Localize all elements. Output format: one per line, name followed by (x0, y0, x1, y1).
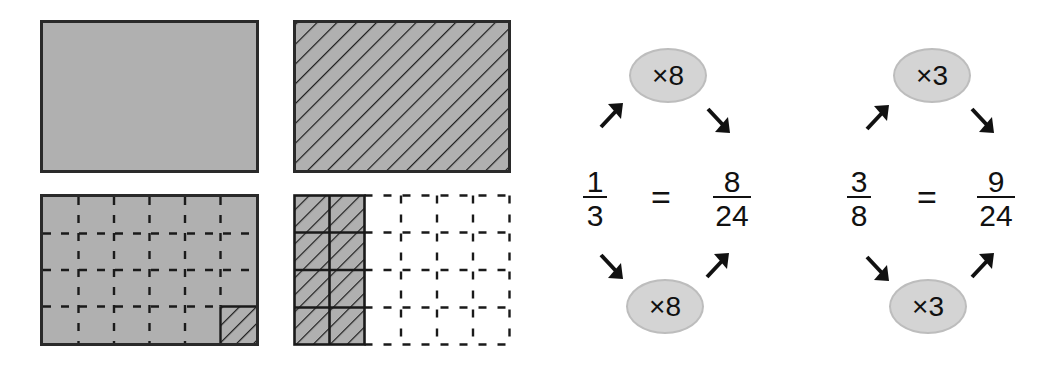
grid-rectangle-eight-hatched (293, 194, 511, 346)
arrow-up-right-icon (864, 102, 892, 132)
equals-sign: = (917, 180, 937, 214)
multiplier-label: ×3 (912, 291, 944, 323)
right-numerator: 8 (712, 167, 752, 197)
multiplier-oval-bottom: ×8 (626, 279, 704, 334)
left-denominator: 3 (582, 201, 608, 231)
right-fraction-bar (977, 196, 1015, 198)
grid-rectangle-one-hatched (40, 194, 259, 346)
arrow-up-right-icon (598, 100, 626, 130)
arrow-down-right-icon (705, 106, 733, 136)
left-numerator: 3 (846, 167, 872, 197)
diagonal-hatch-pattern (296, 23, 511, 173)
partial-hatched-grid (293, 194, 511, 346)
right-fraction-bar (713, 196, 751, 198)
multiplier-oval-top: ×3 (893, 48, 971, 103)
left-fraction-bar (583, 196, 607, 198)
arrow-down-right-icon (969, 106, 997, 136)
arrow-down-right-icon (598, 252, 626, 282)
right-numerator: 9 (976, 167, 1016, 197)
whole-hatched-rectangle (293, 20, 511, 173)
left-numerator: 1 (582, 167, 608, 197)
arrow-up-right-icon (969, 250, 997, 280)
multiplier-label: ×8 (649, 291, 681, 323)
right-denominator: 24 (976, 201, 1016, 231)
multiplier-label: ×3 (916, 60, 948, 92)
left-denominator: 8 (846, 201, 872, 231)
whole-shaded-rectangle (40, 20, 259, 173)
equals-sign: = (651, 180, 671, 214)
right-denominator: 24 (712, 201, 752, 231)
multiplier-oval-bottom: ×3 (889, 279, 967, 334)
arrow-up-right-icon (704, 250, 732, 280)
multiplier-oval-top: ×8 (629, 48, 707, 103)
dashed-grid (43, 197, 256, 343)
left-fraction-bar (847, 196, 871, 198)
arrow-down-right-icon (864, 254, 892, 284)
multiplier-label: ×8 (652, 60, 684, 92)
